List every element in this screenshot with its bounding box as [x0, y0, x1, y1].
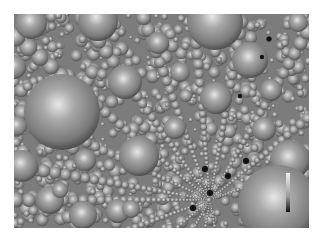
chain-sphere — [196, 188, 199, 191]
chain-sphere — [219, 190, 222, 193]
small-sphere — [221, 145, 230, 154]
chain-sphere — [98, 176, 107, 185]
chain-sphere — [203, 147, 208, 152]
chain-sphere — [144, 220, 150, 226]
chain-sphere — [200, 124, 207, 131]
small-sphere — [298, 105, 305, 112]
chain-sphere — [203, 199, 205, 201]
chain-sphere — [205, 218, 208, 221]
dark-sphere — [266, 36, 272, 42]
large-sphere — [24, 74, 100, 150]
chain-sphere — [213, 198, 215, 200]
small-sphere — [266, 30, 271, 35]
chain-sphere — [175, 198, 179, 202]
chain-sphere — [178, 184, 182, 188]
small-sphere — [42, 37, 50, 45]
chain-sphere — [201, 130, 207, 136]
chain-sphere — [189, 199, 192, 202]
chain-sphere — [195, 180, 198, 183]
chain-sphere — [204, 221, 207, 224]
chain-sphere — [195, 196, 198, 199]
chain-sphere — [22, 193, 36, 207]
dark-sphere — [190, 205, 197, 212]
chain-sphere — [170, 180, 175, 185]
chain-sphere — [154, 216, 160, 222]
large-sphere — [260, 79, 282, 101]
chain-sphere — [227, 165, 231, 169]
chain-sphere — [203, 201, 205, 203]
chain-sphere — [202, 141, 208, 147]
chain-sphere — [205, 161, 209, 165]
small-sphere — [131, 55, 141, 65]
chain-sphere — [212, 221, 215, 224]
small-sphere — [56, 42, 63, 49]
chain-sphere — [205, 206, 207, 208]
chain-sphere — [200, 199, 202, 201]
dark-sphere — [238, 94, 243, 99]
small-sphere — [146, 95, 149, 98]
small-sphere — [203, 63, 211, 71]
chain-sphere — [186, 194, 189, 197]
small-sphere — [57, 23, 61, 27]
small-sphere — [212, 79, 215, 82]
small-sphere — [26, 73, 31, 78]
dark-sphere — [202, 166, 209, 173]
chain-sphere — [206, 204, 208, 206]
chain-sphere — [218, 136, 224, 142]
chain-sphere — [173, 211, 177, 215]
small-sphere — [298, 130, 304, 136]
chain-sphere — [194, 186, 197, 189]
chain-sphere — [195, 221, 198, 224]
chain-sphere — [168, 212, 173, 217]
chain-sphere — [220, 118, 227, 125]
small-sphere — [281, 39, 289, 47]
chain-sphere — [140, 197, 146, 203]
chain-sphere — [199, 194, 201, 196]
chain-sphere — [203, 183, 206, 186]
chain-sphere — [198, 190, 201, 193]
small-sphere — [193, 128, 197, 132]
chain-sphere — [216, 187, 219, 190]
chain-sphere — [70, 171, 81, 182]
small-sphere — [58, 54, 61, 57]
chain-sphere — [199, 110, 207, 118]
chain-sphere — [210, 205, 212, 207]
chain-sphere — [181, 186, 185, 190]
small-sphere — [103, 217, 109, 223]
chain-sphere — [213, 224, 216, 227]
chain-sphere — [213, 191, 215, 193]
small-sphere — [248, 89, 256, 97]
chain-sphere — [196, 209, 199, 212]
chain-sphere — [211, 212, 214, 215]
small-sphere — [134, 38, 140, 44]
small-sphere — [223, 221, 228, 226]
chain-sphere — [192, 199, 195, 202]
chain-sphere — [204, 224, 207, 227]
chain-sphere — [171, 191, 175, 195]
chain-sphere — [224, 186, 227, 189]
chain-sphere — [166, 178, 171, 183]
chain-sphere — [60, 169, 72, 181]
large-sphere — [119, 136, 159, 176]
small-sphere — [244, 31, 257, 44]
small-sphere — [254, 22, 260, 28]
large-sphere — [252, 117, 276, 141]
dark-sphere — [225, 173, 232, 180]
chain-sphere — [191, 174, 195, 178]
chain-sphere — [204, 156, 209, 161]
small-sphere — [79, 35, 87, 43]
chain-sphere — [212, 179, 215, 182]
chain-sphere — [128, 183, 135, 190]
chain-sphere — [162, 190, 167, 195]
chain-sphere — [175, 192, 179, 196]
chain-sphere — [202, 211, 205, 214]
chain-sphere — [156, 197, 161, 202]
chain-sphere — [192, 196, 195, 199]
chain-sphere — [204, 203, 206, 205]
chain-sphere — [195, 78, 205, 88]
small-sphere — [90, 189, 96, 195]
chain-sphere — [174, 108, 182, 116]
chain-sphere — [233, 189, 236, 192]
chain-sphere — [211, 210, 213, 212]
small-sphere — [101, 137, 105, 141]
